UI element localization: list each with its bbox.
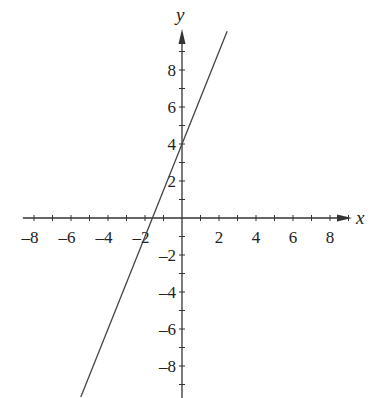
y-tick-label: 6	[168, 98, 177, 117]
x-tick-label: 6	[289, 228, 298, 247]
y-tick-label: –4	[158, 283, 177, 302]
y-tick-label: –8	[158, 357, 176, 376]
y-tick-label: 2	[168, 172, 177, 191]
x-tick-label: 4	[252, 228, 261, 247]
x-axis-arrow-icon	[337, 215, 352, 222]
x-tick-label: –8	[21, 228, 39, 247]
y-tick-label: 4	[168, 135, 177, 154]
y-tick-label: 8	[168, 61, 177, 80]
x-tick-label: –4	[95, 228, 114, 247]
line-y-equals-2.5x-plus-4	[81, 31, 227, 397]
y-axis-arrow-icon	[179, 29, 186, 44]
x-tick-label: 8	[326, 228, 335, 247]
y-tick-label: –2	[158, 246, 176, 265]
x-tick-label: –6	[58, 228, 76, 247]
y-tick-label: –6	[158, 320, 176, 339]
y-axis-label: y	[174, 4, 185, 25]
coordinate-plane: –8–6–4–224688642–2–4–6–8 x y	[0, 0, 375, 398]
axes	[23, 29, 352, 398]
x-axis-label: x	[355, 207, 365, 228]
x-tick-label: 2	[215, 228, 224, 247]
plotted-line	[81, 31, 227, 397]
